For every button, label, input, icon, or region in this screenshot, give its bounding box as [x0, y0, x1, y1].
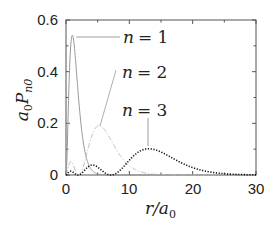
ytick-label-0: 0	[50, 166, 58, 183]
ytick-label-0.2: 0.2	[37, 114, 58, 131]
label-n1: n= 1	[123, 27, 168, 47]
label-n3: n= 3	[122, 100, 167, 120]
curve-n2	[66, 126, 256, 175]
ytick-label-0.4: 0.4	[37, 63, 58, 80]
ytick-label-0.6: 0.6	[37, 11, 58, 28]
label-n2: n= 2	[122, 62, 167, 82]
y-axis-label: a0Pn0	[12, 79, 35, 122]
curve-n3	[66, 149, 256, 175]
xtick-label-20: 20	[185, 180, 202, 197]
radial-probability-chart: n= 1 n= 2 n= 3 0 0.2 0.4 0.6 0 10 20 30 …	[0, 0, 278, 225]
xtick-label-10: 10	[121, 180, 138, 197]
xtick-label-0: 0	[62, 180, 70, 197]
xtick-label-30: 30	[248, 180, 265, 197]
x-axis-label: r/a0	[145, 198, 176, 221]
leader-line-n2	[100, 70, 116, 126]
